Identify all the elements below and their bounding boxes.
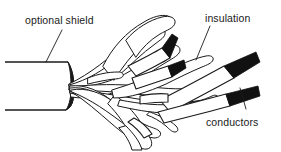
cable-jacket [5,62,74,110]
bare-conductor-tip [226,86,260,106]
cable-diagram: optional shield insulation conductors [0,0,281,152]
insulated-wire-stub [140,94,168,104]
leader-optional-shield [46,30,62,62]
cable-illustration: optional shield insulation conductors [0,0,281,152]
leader-insulation [196,26,210,60]
label-insulation: insulation [205,12,250,24]
label-conductors: conductors [206,116,258,128]
label-optional-shield: optional shield [25,14,94,26]
